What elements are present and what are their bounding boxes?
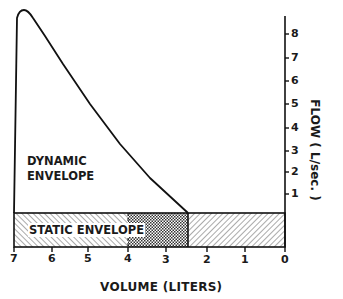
x-tick-4: 4	[124, 252, 132, 265]
x-tick-2: 2	[203, 253, 211, 266]
x-tick-7: 7	[10, 252, 18, 265]
x-axis-title: VOLUME (LITERS)	[100, 280, 222, 294]
dynamic-label-line2: ENVELOPE	[27, 169, 94, 184]
x-tick-1: 1	[241, 253, 249, 266]
y-tick-5: 5	[291, 97, 299, 110]
x-tick-6: 6	[48, 252, 56, 265]
dynamic-envelope-label: DYNAMIC ENVELOPE	[27, 154, 94, 184]
x-tick-0: 0	[281, 253, 289, 266]
static-envelope-label: STATIC ENVELOPE	[28, 223, 145, 237]
y-axis	[285, 16, 289, 247]
y-tick-3: 3	[291, 144, 299, 157]
x-tick-3: 3	[162, 253, 170, 266]
band-right-hatch	[188, 213, 285, 247]
y-tick-8: 8	[291, 27, 299, 40]
y-tick-4: 4	[291, 121, 299, 134]
y-tick-7: 7	[291, 51, 299, 64]
y-tick-2: 2	[291, 165, 299, 178]
y-axis-title: FLOW ( L/sec. )	[308, 99, 322, 200]
x-tick-5: 5	[84, 252, 92, 265]
dynamic-label-line1: DYNAMIC	[27, 154, 94, 169]
y-tick-6: 6	[291, 74, 299, 87]
y-tick-1: 1	[291, 187, 299, 200]
